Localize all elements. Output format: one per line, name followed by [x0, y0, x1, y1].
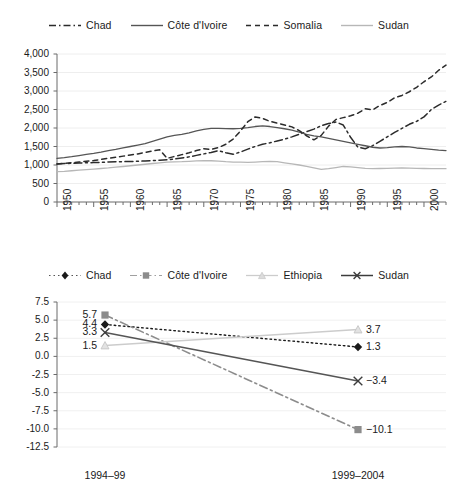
y-axis-tick-label: -5.0 — [0, 387, 49, 398]
x-axis-tick-label: 1965 — [172, 189, 183, 211]
series-chad — [101, 320, 362, 351]
population-trend-chart: Chad Côte d'Ivoire Somalia Sudan 05001,0… — [0, 0, 457, 262]
series-line-chad — [57, 101, 446, 164]
x-axis-tick-label: 1985 — [319, 189, 330, 211]
x-axis-tick-label: 1950 — [62, 189, 73, 211]
y-axis-tick-label: 500 — [0, 178, 49, 189]
x-axis-category-label: 1999–2004 — [328, 469, 388, 481]
y-axis-tick-label: 2,500 — [0, 104, 49, 115]
legend-label: Chad — [86, 270, 112, 281]
series-c-te-d-ivoire — [101, 311, 361, 433]
legend-item-chad[interactable]: Chad — [48, 270, 112, 281]
legend-label: Côte d'Ivoire — [168, 20, 228, 31]
x-axis-category-label: 1994–99 — [75, 469, 135, 481]
legend-label: Côte d'Ivoire — [167, 270, 227, 281]
legend-item-ethiopia[interactable]: Ethiopia — [245, 270, 322, 281]
legend-label: Chad — [86, 20, 112, 31]
solid-line-icon — [130, 20, 164, 31]
legend-item-somalia[interactable]: Somalia — [245, 20, 322, 31]
y-axis-tick-label: 3,500 — [0, 67, 49, 78]
legend-label: Sudan — [378, 20, 409, 31]
y-axis-tick-label: 5.0 — [0, 314, 49, 325]
x-axis-tick-label: 1990 — [356, 189, 367, 211]
x-axis-tick-label: 1980 — [282, 189, 293, 211]
legend-item-chad[interactable]: Chad — [48, 20, 112, 31]
light-triangle-marker-icon — [245, 270, 279, 281]
series-ethiopia — [101, 326, 362, 349]
top-chart-canvas — [0, 44, 457, 262]
y-axis-tick-label: -12.5 — [0, 441, 49, 452]
dash-dot-line-icon — [48, 20, 82, 31]
y-axis-tick-label: 1,000 — [0, 159, 49, 170]
y-axis-tick-label: 2.5 — [0, 332, 49, 343]
y-axis-tick-label: 3,000 — [0, 85, 49, 96]
dashed-line-icon — [245, 20, 279, 31]
data-point-label: 1.5 — [59, 339, 97, 351]
x-axis-tick-label: 1995 — [392, 189, 403, 211]
y-axis-tick-label: 0.0 — [0, 350, 49, 361]
y-axis-tick-label: -7.5 — [0, 405, 49, 416]
y-axis-tick-label: -10.0 — [0, 423, 49, 434]
y-axis-tick-label: -2.5 — [0, 369, 49, 380]
legend-item-cote-divoire[interactable]: Côte d'Ivoire — [130, 20, 228, 31]
legend-label: Sudan — [378, 270, 409, 281]
legend-label: Ethiopia — [283, 270, 322, 281]
data-point-label: 5.7 — [59, 308, 97, 320]
gdp-growth-chart: Chad Côte d'Ivoire Ethiopia — [0, 262, 457, 493]
series-line-c-te-d-ivoire — [57, 126, 446, 159]
data-point-label: 3.3 — [59, 325, 97, 337]
top-plot-area: 05001,0001,5002,0002,5003,0003,5004,0001… — [0, 44, 457, 262]
y-axis-tick-label: 7.5 — [0, 296, 49, 307]
y-axis-tick-label: 2,000 — [0, 122, 49, 133]
bottom-chart-legend: Chad Côte d'Ivoire Ethiopia — [0, 262, 457, 281]
legend-item-cote-divoire[interactable]: Côte d'Ivoire — [129, 270, 227, 281]
bottom-plot-area: 7.55.02.50.0-2.5-5.0-7.5-10.0-12.51994–9… — [0, 292, 457, 493]
y-axis-tick-label: 1,500 — [0, 141, 49, 152]
legend-label: Somalia — [283, 20, 322, 31]
x-axis-tick-label: 1955 — [99, 189, 110, 211]
top-chart-legend: Chad Côte d'Ivoire Somalia Sudan — [0, 0, 457, 31]
solid-x-marker-icon — [340, 270, 374, 281]
legend-item-sudan[interactable]: Sudan — [340, 20, 409, 31]
light-solid-line-icon — [340, 20, 374, 31]
dashdot-square-marker-icon — [129, 270, 163, 281]
y-axis-tick-label: 4,000 — [0, 48, 49, 59]
x-axis-tick-label: 1960 — [135, 189, 146, 211]
y-axis-tick-label: 0 — [0, 196, 49, 207]
x-axis-tick-label: 2000 — [429, 189, 440, 211]
data-point-label: 1.3 — [366, 340, 381, 352]
x-axis-tick-label: 1970 — [209, 189, 220, 211]
data-point-label: −3.4 — [366, 374, 387, 386]
x-axis-tick-label: 1975 — [245, 189, 256, 211]
data-point-label: −10.1 — [366, 423, 393, 435]
data-point-label: 3.7 — [366, 323, 381, 335]
legend-item-sudan[interactable]: Sudan — [340, 270, 409, 281]
dotted-diamond-marker-icon — [48, 270, 82, 281]
